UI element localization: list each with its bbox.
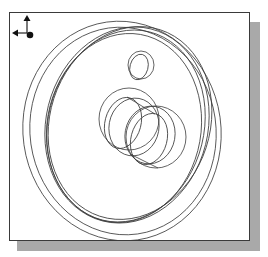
x-axis-arrow-icon [12,30,18,37]
hub-edge [120,102,179,168]
small-hole-edge [128,51,154,79]
model-viewport[interactable] [9,12,250,241]
hub-edge [99,88,159,150]
outer-ring [27,13,225,239]
hub-edge [99,93,147,153]
z-axis-dot-icon [27,32,34,39]
model-drawing [10,13,250,241]
y-axis-arrow-icon [24,15,31,21]
coordinate-triad-icon [10,13,40,41]
